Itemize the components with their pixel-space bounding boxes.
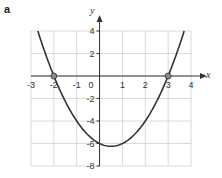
svg-text:1: 1	[120, 80, 125, 90]
y-axis-label: y	[89, 5, 95, 16]
svg-text:-4: -4	[87, 116, 95, 126]
root-point	[51, 73, 57, 79]
svg-text:0: 0	[89, 80, 94, 90]
svg-text:-2: -2	[87, 94, 95, 104]
root-point	[165, 73, 171, 79]
svg-text:-1: -1	[73, 80, 81, 90]
parabola-chart: a -3-2-1123442-2-4-6-80 x y	[0, 0, 222, 178]
panel-label: a	[4, 3, 11, 15]
svg-text:2: 2	[143, 80, 148, 90]
svg-text:-8: -8	[87, 161, 95, 171]
svg-text:4: 4	[90, 26, 95, 36]
svg-text:4: 4	[188, 80, 193, 90]
x-axis-label: x	[205, 69, 211, 80]
parabola-curve	[38, 31, 184, 146]
svg-text:2: 2	[90, 49, 95, 59]
svg-text:-3: -3	[27, 80, 35, 90]
